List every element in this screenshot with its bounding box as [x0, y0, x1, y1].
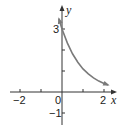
x-axis-label: x: [110, 93, 117, 107]
x-tick-label-0: 0: [55, 94, 61, 106]
chart: y x 3 −2 0 2 −1: [0, 0, 121, 130]
curve-end-arrow-icon: [103, 81, 110, 86]
y-tick-label-neg1: −1: [49, 107, 62, 119]
y-axis-arrow-icon: [60, 5, 65, 11]
y-tick-label-3: 3: [53, 23, 59, 35]
exponential-curve: [59, 19, 108, 85]
x-tick-label-2: 2: [100, 94, 106, 106]
x-tick-label-neg2: −2: [13, 94, 26, 106]
y-axis-label: y: [65, 3, 72, 17]
